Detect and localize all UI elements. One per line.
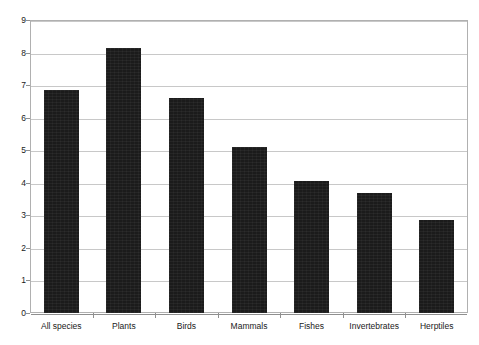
bar-mammals xyxy=(232,147,267,313)
x-tick-mark xyxy=(218,313,219,318)
bar-birds xyxy=(169,98,204,313)
bar-all-species xyxy=(44,90,79,313)
y-tick-mark xyxy=(26,313,30,314)
gridline xyxy=(31,314,467,315)
y-tick-label: 5 xyxy=(2,145,26,155)
y-tick-label: 7 xyxy=(2,80,26,90)
y-tick-label: 6 xyxy=(2,113,26,123)
bars-layer xyxy=(30,20,468,313)
bar-herptiles xyxy=(419,220,454,313)
x-tick-mark xyxy=(93,313,94,318)
y-tick-label: 9 xyxy=(2,15,26,25)
bar-chart: Average number of years 0123456789 All s… xyxy=(0,0,479,345)
x-tick-label: Plants xyxy=(112,321,136,331)
y-tick-label: 4 xyxy=(2,178,26,188)
y-tick-label: 3 xyxy=(2,210,26,220)
y-tick-label: 2 xyxy=(2,243,26,253)
x-tick-mark xyxy=(280,313,281,318)
x-tick-label: Mammals xyxy=(231,321,268,331)
x-tick-label: Fishes xyxy=(299,321,324,331)
x-tick-label: Herptiles xyxy=(420,321,454,331)
x-tick-mark xyxy=(155,313,156,318)
y-tick-label: 8 xyxy=(2,48,26,58)
bar-plants xyxy=(106,48,141,313)
y-tick-label: 0 xyxy=(2,308,26,318)
bar-invertebrates xyxy=(357,193,392,313)
x-tick-label: All species xyxy=(41,321,82,331)
x-tick-label: Invertebrates xyxy=(349,321,399,331)
x-tick-mark xyxy=(343,313,344,318)
y-tick-label: 1 xyxy=(2,275,26,285)
x-tick-label: Birds xyxy=(177,321,196,331)
x-tick-mark xyxy=(405,313,406,318)
bar-fishes xyxy=(294,181,329,313)
